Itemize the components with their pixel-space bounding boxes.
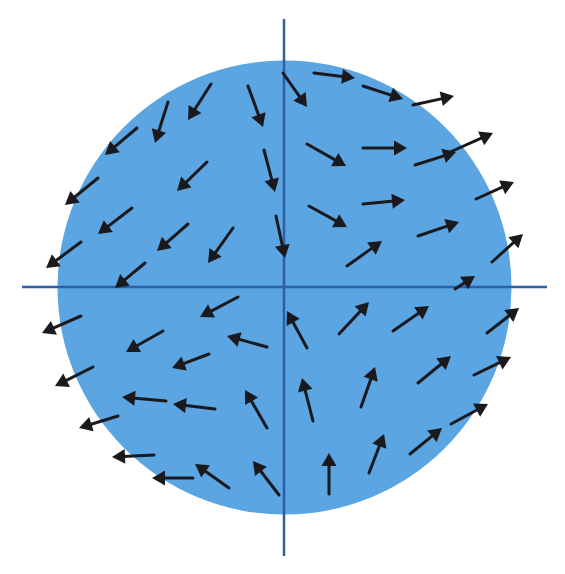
- diagram-canvas: [0, 0, 565, 574]
- vector-field-diagram: [0, 0, 565, 574]
- arrow-icon: [413, 91, 454, 106]
